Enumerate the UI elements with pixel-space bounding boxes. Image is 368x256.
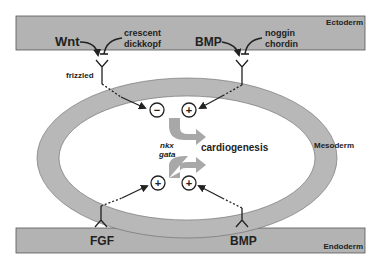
wnt-label: Wnt [55,34,80,49]
frizzled-label: frizzled [66,71,94,80]
wnt-inhibitor-2: dickkopf [124,39,162,49]
bmp-inhibitor-2: chordin [265,39,298,49]
effect-positive-top-right: + [182,103,196,117]
bmp-top-label: BMP [195,35,222,49]
endoderm-label: Endoderm [323,242,363,251]
bmp-inhibitor-1: noggin [265,28,295,38]
bmp-receptor-icon [236,60,248,85]
mesoderm-label: Mesoderm [314,141,354,150]
gene-nkx: nkx [160,141,174,150]
effect-negative-top-left: − [150,103,164,117]
effect-positive-bottom-right: + [182,176,196,190]
gene-gata: gata [158,150,176,159]
svg-text:+: + [186,104,192,116]
effect-positive-bottom-left: + [151,176,165,190]
svg-text:+: + [155,177,161,189]
ectoderm-label: Ectoderm [326,18,363,27]
cardiogenesis-diagram: Ectoderm Endoderm Mesoderm Wnt crescent … [0,0,368,256]
fgf-label: FGF [90,234,114,248]
svg-text:+: + [186,177,192,189]
outcome-label: cardiogenesis [201,142,269,153]
svg-text:−: − [154,104,160,116]
wnt-inhibitor-1: crescent [124,28,161,38]
bmp-bottom-label: BMP [230,234,257,248]
frizzled-receptor-icon [96,60,108,84]
